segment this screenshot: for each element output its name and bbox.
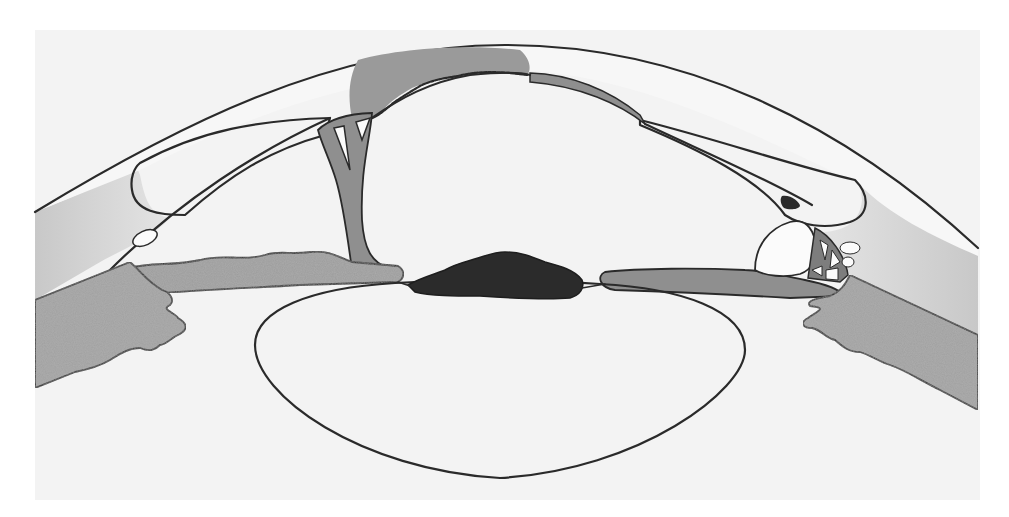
eye-anterior-segment-diagram [0, 0, 1009, 517]
figure-stage [0, 0, 1009, 517]
